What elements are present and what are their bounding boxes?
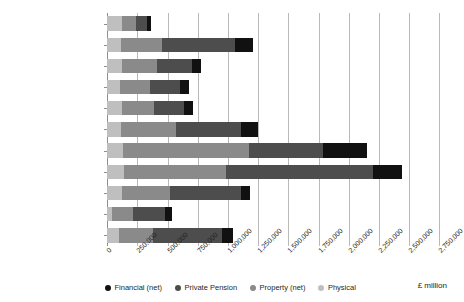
chart-row: London [107,140,439,161]
bar-segment [150,80,180,94]
bar-segment [107,38,121,52]
chart-row: North East [107,13,439,34]
bar-segment [107,122,121,136]
legend-label: Financial (net) [115,283,163,292]
bar-segment [165,207,172,221]
bar-segment [121,122,176,136]
chart-row: West Midlands [107,98,439,119]
legend-label: Property (net) [260,283,306,292]
bar-segment [120,80,150,94]
legend-item[interactable]: Financial (net) [105,283,162,292]
bar-segment [107,16,121,30]
x-axis-tick-label: 2,750,000 [437,227,464,254]
bar-segment [107,143,123,157]
stacked-bar [107,207,172,221]
legend-item[interactable]: Private Pension [175,283,237,292]
bar-segment [122,186,170,200]
chart-row: East Midlands [107,77,439,98]
stacked-bar [107,165,402,179]
bar-segment [170,186,241,200]
bar-segment [107,101,121,115]
legend-item[interactable]: Property (net) [250,283,305,292]
bar-segment [192,59,201,73]
stacked-bar [107,143,367,157]
bar-segment [235,38,253,52]
bar-segment [241,186,250,200]
chart-row: Yorkshire & the Humber [107,55,439,76]
chart-row: South West [107,182,439,203]
stacked-bar [107,122,258,136]
bar-segment [147,16,151,30]
stacked-bar [107,80,188,94]
legend-label: Private Pension [185,283,238,292]
axis-unit-label: £ million [418,281,447,290]
bar-segment [107,186,121,200]
bar-segment [222,228,233,242]
bar-segment [107,165,123,179]
bar-segment [184,101,193,115]
bar-segment [373,165,403,179]
chart-row: North West [107,34,439,55]
circle-marker-icon [105,285,111,291]
bar-segment [249,143,324,157]
bar-segment [176,122,241,136]
stacked-bar [107,101,193,115]
bar-segment [241,122,258,136]
chart-row: Wales [107,204,439,225]
bar-segment [124,165,227,179]
chart-row: East of England [107,119,439,140]
bar-segment [122,16,136,30]
chart-legend: Financial (net)Private PensionProperty (… [105,283,356,292]
bar-segment [162,38,234,52]
stacked-bar [107,59,201,73]
bar-segment [157,59,193,73]
legend-label: Physical [328,283,356,292]
bar-segment [133,207,165,221]
bar-segment [323,143,367,157]
x-axis-tick-label: 0 [105,246,113,254]
stacked-bar [107,186,250,200]
circle-marker-icon [250,285,256,291]
circle-marker-icon [175,285,181,291]
bar-segment [136,16,147,30]
bar-segment [226,165,373,179]
bar-segment [123,143,249,157]
legend-item[interactable]: Physical [318,283,355,292]
bar-segment [112,207,133,221]
bar-segment [122,59,157,73]
stacked-bar [107,16,150,30]
chart-row: South East [107,161,439,182]
bar-segment [121,38,162,52]
plot-area: North EastNorth WestYorkshire & the Humb… [107,13,439,246]
bar-segment [154,101,184,115]
bar-segment [180,80,189,94]
bar-segment [107,80,120,94]
stacked-bar [107,38,252,52]
gridline [439,13,440,246]
bar-segment [107,59,121,73]
bar-segment [107,228,119,242]
circle-marker-icon [318,285,324,291]
bar-segment [122,101,154,115]
